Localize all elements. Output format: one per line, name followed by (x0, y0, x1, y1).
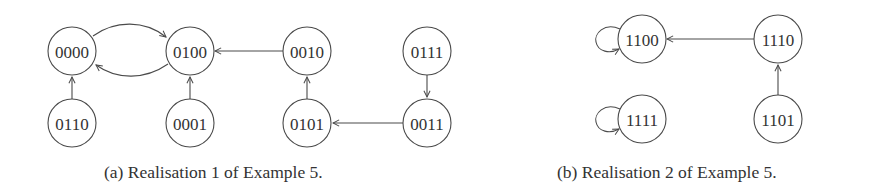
edge-0100-to-0000 (96, 64, 168, 76)
node-label: 0100 (173, 43, 207, 62)
node-1100: 1100 (618, 15, 666, 63)
node-label: 0101 (290, 115, 324, 134)
edge-0000-to-0100 (93, 24, 166, 37)
node-1111: 1111 (618, 95, 666, 143)
node-label: 1101 (761, 111, 794, 130)
node-label: 1111 (626, 111, 658, 130)
node-1101: 1101 (754, 95, 802, 143)
node-0100: 0100 (166, 27, 214, 75)
node-0111: 0111 (403, 27, 451, 75)
node-label: 1100 (625, 31, 658, 50)
node-0010: 0010 (283, 27, 331, 75)
self-loop-1100 (596, 27, 620, 52)
node-label: 1110 (762, 31, 795, 50)
node-0011: 0011 (403, 99, 451, 147)
node-label: 0011 (410, 115, 443, 134)
node-0001: 0001 (166, 99, 214, 147)
node-0101: 0101 (283, 99, 331, 147)
node-label: 0010 (290, 43, 324, 62)
caption-subfigure-a: (a) Realisation 1 of Example 5. (104, 164, 323, 182)
caption-subfigure-b: (b) Realisation 2 of Example 5. (557, 164, 777, 182)
node-0110: 0110 (48, 99, 96, 147)
subfigure-a-edges (72, 24, 427, 123)
node-0000: 0000 (48, 27, 96, 75)
node-label: 0110 (55, 115, 88, 134)
node-label: 0111 (411, 43, 444, 62)
node-1110: 1110 (754, 15, 802, 63)
state-transition-figure: 0000 0100 0010 0111 0110 0001 0101 0011 (0, 0, 874, 195)
self-loop-1111 (596, 107, 620, 132)
node-label: 0001 (173, 115, 207, 134)
node-label: 0000 (55, 43, 89, 62)
